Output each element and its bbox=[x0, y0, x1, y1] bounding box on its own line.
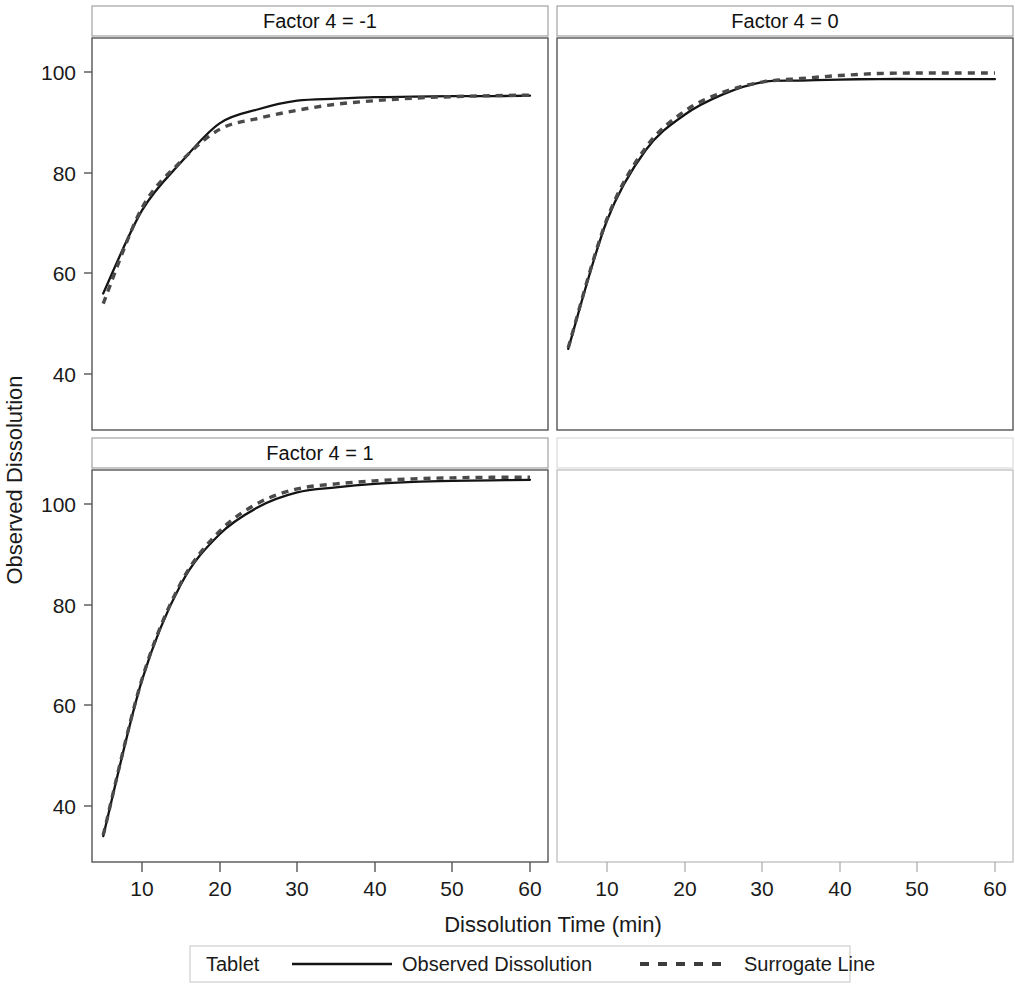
panel-3-y-ticks: 100 80 60 40 bbox=[41, 493, 92, 818]
x-tick-label: 60 bbox=[983, 877, 1006, 900]
panel-1-series bbox=[103, 95, 530, 303]
panel-3-x-ticks: 10 20 30 40 50 60 bbox=[130, 862, 541, 900]
x-tick-label: 20 bbox=[208, 877, 231, 900]
x-tick-label: 60 bbox=[518, 877, 541, 900]
x-tick-label: 40 bbox=[828, 877, 851, 900]
panel-factor4-0: Factor 4 = 0 bbox=[557, 6, 1013, 430]
x-tick-label: 50 bbox=[905, 877, 928, 900]
legend-item-label-observed-dissolution: Observed Dissolution bbox=[402, 953, 592, 975]
y-axis-title: Observed Dissolution bbox=[2, 375, 27, 584]
x-tick-label: 10 bbox=[130, 877, 153, 900]
series-line-surrogate bbox=[103, 95, 530, 303]
y-tick-label: 80 bbox=[53, 594, 76, 617]
y-tick-label: 100 bbox=[41, 493, 76, 516]
panel-title-factor4-1: Factor 4 = 1 bbox=[266, 442, 373, 464]
series-line-surrogate bbox=[568, 73, 995, 348]
y-tick-label: 40 bbox=[53, 795, 76, 818]
legend: Tablet Observed Dissolution Surrogate Li… bbox=[190, 946, 875, 982]
y-tick-label: 40 bbox=[53, 363, 76, 386]
x-tick-label: 30 bbox=[285, 877, 308, 900]
panel-4-x-ticks: 10 20 30 40 50 60 bbox=[595, 862, 1006, 900]
series-line-observed bbox=[103, 480, 530, 836]
panel-plot-frame bbox=[92, 470, 548, 862]
series-line-surrogate bbox=[103, 477, 530, 835]
panel-plot-frame-empty bbox=[557, 470, 1013, 862]
y-tick-label: 100 bbox=[41, 61, 76, 84]
panel-header-strip-empty bbox=[557, 438, 1013, 468]
panel-factor4-neg1: Factor 4 = -1 100 80 60 40 bbox=[41, 6, 548, 430]
y-tick-label: 60 bbox=[53, 694, 76, 717]
panel-1-y-ticks: 100 80 60 40 bbox=[41, 61, 92, 386]
dissolution-profile-figure: Observed Dissolution Dissolution Time (m… bbox=[0, 0, 1015, 988]
y-tick-label: 60 bbox=[53, 262, 76, 285]
series-line-observed bbox=[568, 79, 995, 349]
panel-3-series bbox=[103, 477, 530, 836]
panel-factor4-1: Factor 4 = 1 100 80 60 40 10 20 bbox=[41, 438, 548, 900]
panel-empty: 10 20 30 40 50 60 bbox=[557, 438, 1013, 900]
y-tick-label: 80 bbox=[53, 162, 76, 185]
x-tick-label: 50 bbox=[440, 877, 463, 900]
chart-canvas: Observed Dissolution Dissolution Time (m… bbox=[0, 0, 1015, 988]
panel-2-series bbox=[568, 73, 995, 349]
panel-title-factor4-neg1: Factor 4 = -1 bbox=[263, 10, 377, 32]
panel-plot-frame bbox=[557, 38, 1013, 430]
panel-title-factor4-0: Factor 4 = 0 bbox=[731, 10, 838, 32]
x-tick-label: 20 bbox=[673, 877, 696, 900]
x-axis-title: Dissolution Time (min) bbox=[444, 912, 662, 937]
legend-group-label: Tablet bbox=[206, 953, 260, 975]
x-tick-label: 10 bbox=[595, 877, 618, 900]
series-line-observed bbox=[103, 96, 530, 294]
x-tick-label: 30 bbox=[750, 877, 773, 900]
legend-item-label-surrogate-line: Surrogate Line bbox=[744, 953, 875, 975]
x-tick-label: 40 bbox=[363, 877, 386, 900]
